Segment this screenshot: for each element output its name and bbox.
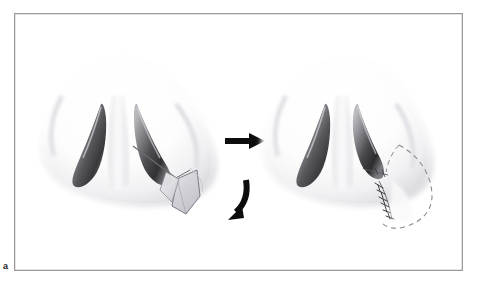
curved-arrow [228, 180, 247, 220]
columella-post [332, 96, 353, 189]
arrow-group [225, 133, 265, 220]
suture-knot [363, 167, 365, 169]
straight-arrow [225, 133, 265, 149]
figure-root: a [0, 0, 478, 284]
columella [108, 96, 129, 189]
nose-preoperative [39, 54, 218, 214]
nose-postoperative [261, 54, 434, 228]
panel-letter: a [3, 261, 8, 272]
illustration-canvas [0, 0, 478, 284]
